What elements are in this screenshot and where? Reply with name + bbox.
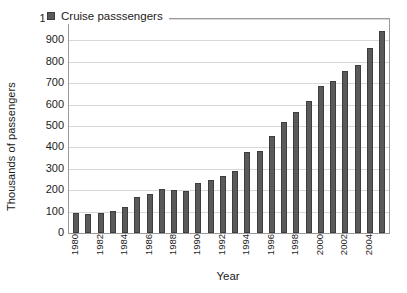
x-tick-slot bbox=[130, 234, 142, 268]
x-tick-slot: 2004 bbox=[363, 234, 375, 268]
x-axis-tick-label: 1988 bbox=[168, 234, 178, 255]
plot-area bbox=[68, 18, 390, 234]
x-axis-tick-label: 2004 bbox=[364, 234, 374, 255]
x-axis-tick-label: 1980 bbox=[70, 234, 80, 255]
bar bbox=[355, 65, 361, 233]
bar bbox=[342, 71, 348, 233]
x-tick-slot: 1988 bbox=[167, 234, 179, 268]
bar bbox=[379, 31, 385, 233]
bar bbox=[134, 197, 140, 233]
x-tick-slot bbox=[350, 234, 362, 268]
bar-slot bbox=[156, 19, 168, 233]
bar bbox=[318, 86, 324, 233]
x-axis-tick-label: 1994 bbox=[241, 234, 251, 255]
bar bbox=[257, 151, 263, 233]
bar bbox=[73, 213, 79, 233]
y-axis-tick-label: 600 bbox=[26, 98, 64, 109]
bar-slot bbox=[364, 19, 376, 233]
y-axis-tick-label: 300 bbox=[26, 162, 64, 173]
bar-slot bbox=[290, 19, 302, 233]
bar bbox=[98, 213, 104, 233]
bar-slot bbox=[278, 19, 290, 233]
x-axis-tick-label: 1996 bbox=[266, 234, 276, 255]
bar bbox=[306, 101, 312, 233]
x-tick-slot bbox=[204, 234, 216, 268]
bar-slot bbox=[143, 19, 155, 233]
bar bbox=[208, 180, 214, 233]
bar-slot bbox=[254, 19, 266, 233]
x-tick-slot: 1980 bbox=[69, 234, 81, 268]
x-tick-slot bbox=[228, 234, 240, 268]
bar-slot bbox=[302, 19, 314, 233]
x-tick-slot bbox=[326, 234, 338, 268]
bar bbox=[85, 214, 91, 233]
y-axis-tick-label: 0 bbox=[26, 227, 64, 238]
x-axis-tick-label: 1998 bbox=[290, 234, 300, 255]
x-axis-tick-label: 2000 bbox=[315, 234, 325, 255]
x-tick-slot bbox=[81, 234, 93, 268]
x-axis-tick-label: 1992 bbox=[217, 234, 227, 255]
bar-slot bbox=[327, 19, 339, 233]
y-axis-tick-labels: 10009008007006005004003002001000 bbox=[26, 12, 64, 238]
bar bbox=[122, 207, 128, 233]
bar bbox=[110, 211, 116, 233]
y-axis-tick-label: 400 bbox=[26, 141, 64, 152]
bar-slot bbox=[339, 19, 351, 233]
bar-slot bbox=[266, 19, 278, 233]
bar bbox=[330, 81, 336, 233]
bar bbox=[147, 194, 153, 233]
x-axis-tick-label: 1982 bbox=[95, 234, 105, 255]
x-tick-slot: 1982 bbox=[93, 234, 105, 268]
legend: Cruise passsengers bbox=[45, 8, 169, 24]
bar-slot bbox=[351, 19, 363, 233]
x-tick-slot: 1986 bbox=[142, 234, 154, 268]
y-axis-tick-label: 200 bbox=[26, 184, 64, 195]
bar-slot bbox=[180, 19, 192, 233]
bar bbox=[232, 171, 238, 233]
x-tick-slot: 1996 bbox=[265, 234, 277, 268]
y-axis-tick-label: 500 bbox=[26, 120, 64, 131]
x-tick-slot: 1990 bbox=[191, 234, 203, 268]
bar bbox=[244, 152, 250, 233]
bar-slot bbox=[241, 19, 253, 233]
bar-slot bbox=[217, 19, 229, 233]
x-tick-slot: 2000 bbox=[314, 234, 326, 268]
x-tick-slot bbox=[375, 234, 387, 268]
bar-slot bbox=[107, 19, 119, 233]
bar-slot bbox=[119, 19, 131, 233]
y-axis-tick-label: 800 bbox=[26, 55, 64, 66]
bar bbox=[195, 183, 201, 233]
x-axis-tick-label: 2002 bbox=[339, 234, 349, 255]
x-tick-slot bbox=[301, 234, 313, 268]
x-axis-tick-label: 1986 bbox=[144, 234, 154, 255]
bar bbox=[269, 136, 275, 233]
legend-swatch-icon bbox=[47, 12, 55, 20]
x-axis-tick-labels: 1980198219841986198819901992199419961998… bbox=[68, 234, 388, 268]
x-axis-tick-label: 1990 bbox=[192, 234, 202, 255]
bar bbox=[183, 191, 189, 233]
y-axis-title: Thousands of passengers bbox=[0, 0, 22, 293]
bar bbox=[171, 190, 177, 233]
bar-slot bbox=[94, 19, 106, 233]
x-tick-slot: 2002 bbox=[338, 234, 350, 268]
legend-label: Cruise passsengers bbox=[61, 10, 163, 22]
bar bbox=[293, 112, 299, 233]
bar bbox=[220, 176, 226, 233]
bar-series bbox=[69, 19, 389, 233]
x-tick-slot: 1998 bbox=[289, 234, 301, 268]
bar bbox=[367, 48, 373, 233]
x-tick-slot: 1994 bbox=[240, 234, 252, 268]
bar bbox=[281, 122, 287, 233]
bar-slot bbox=[315, 19, 327, 233]
x-tick-slot: 1984 bbox=[118, 234, 130, 268]
x-axis-title: Year bbox=[68, 270, 388, 282]
bar-slot bbox=[82, 19, 94, 233]
bar-slot bbox=[131, 19, 143, 233]
cruise-passengers-bar-chart: Thousands of passengers 1000900800700600… bbox=[0, 0, 407, 293]
y-axis-tick-label: 100 bbox=[26, 205, 64, 216]
bar-slot bbox=[205, 19, 217, 233]
x-tick-slot bbox=[253, 234, 265, 268]
y-axis-tick-label: 900 bbox=[26, 34, 64, 45]
x-tick-slot: 1992 bbox=[216, 234, 228, 268]
bar bbox=[159, 189, 165, 233]
